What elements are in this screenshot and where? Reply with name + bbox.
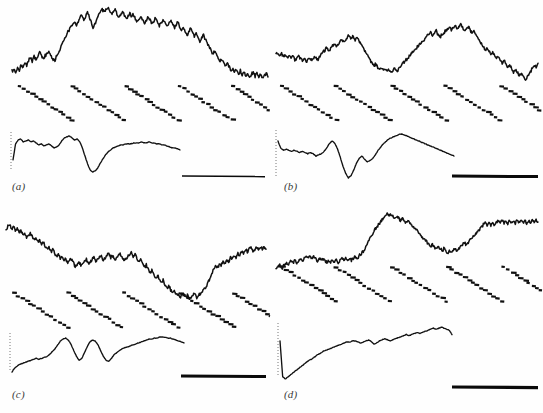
raster-sweep	[446, 267, 504, 302]
bottom-trace	[12, 337, 184, 372]
top-trace	[6, 225, 266, 299]
raster-band	[12, 292, 270, 328]
figure-canvas: (a) (b) (c) (d)	[0, 0, 543, 413]
scale-bar	[452, 387, 538, 388]
top-trace	[276, 213, 538, 269]
raster-sweep	[501, 267, 542, 291]
raster-band	[18, 86, 270, 121]
raster-sweep	[125, 86, 182, 120]
bottom-trace	[13, 136, 180, 172]
raster-sweep	[390, 86, 449, 121]
bottom-trace	[280, 327, 452, 379]
panel-label-b: (b)	[284, 180, 297, 192]
raster-sweep	[179, 293, 237, 326]
raster-sweep	[280, 86, 339, 120]
raster-band	[280, 86, 541, 121]
panel-b	[272, 0, 543, 206]
raster-sweep	[334, 86, 393, 120]
raster-sweep	[71, 86, 126, 120]
panel-a-plot	[0, 0, 271, 206]
panel-b-plot	[272, 0, 543, 206]
scale-bar	[182, 176, 265, 177]
panel-label-c: (c)	[12, 388, 25, 400]
scale-bar	[181, 376, 266, 377]
raster-sweep	[280, 266, 337, 301]
raster-sweep	[231, 86, 270, 111]
top-trace	[276, 24, 538, 81]
raster-sweep	[232, 294, 270, 317]
raster-sweep	[18, 86, 75, 121]
scale-bar	[452, 176, 538, 177]
top-trace	[12, 7, 268, 77]
raster-sweep	[66, 292, 123, 327]
bottom-trace	[278, 134, 454, 178]
panel-a	[0, 0, 271, 206]
raster-sweep	[12, 293, 70, 328]
panel-d-plot	[272, 207, 543, 413]
panel-d	[272, 207, 543, 413]
raster-sweep	[334, 267, 392, 301]
panel-c-plot	[0, 207, 271, 413]
raster-sweep	[390, 267, 448, 302]
raster-sweep	[499, 86, 541, 110]
panel-c	[0, 207, 271, 413]
panel-label-d: (d)	[284, 388, 297, 400]
raster-sweep	[178, 86, 236, 120]
raster-band	[280, 266, 542, 302]
raster-sweep	[122, 292, 180, 327]
panel-label-a: (a)	[12, 180, 25, 192]
raster-sweep	[443, 86, 502, 121]
